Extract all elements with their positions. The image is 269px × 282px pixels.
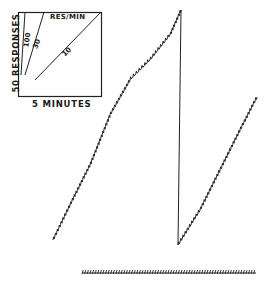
cumulative-record-segment-2 (178, 97, 257, 245)
inset-y-axis-label: 50 RESPONSES (11, 13, 21, 93)
event-marker-line (82, 270, 256, 274)
cumulative-record-segment-1 (53, 10, 181, 240)
pen-reset-line (178, 10, 181, 245)
inset-x-axis-label: 5 MINUTES (32, 99, 91, 109)
inset-rate-header: RES/MIN (50, 13, 85, 21)
